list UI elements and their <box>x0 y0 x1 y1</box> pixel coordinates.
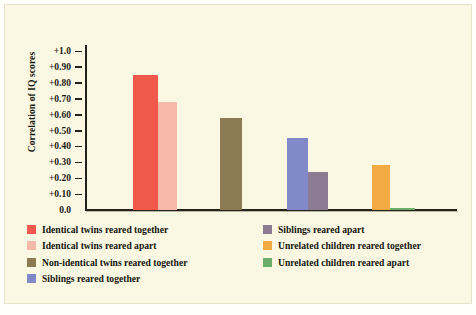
bar <box>308 172 328 210</box>
legend-swatch <box>263 241 272 250</box>
y-axis-tick: +0.90 <box>23 61 83 73</box>
y-axis-tick-label: +0.40 <box>49 140 71 152</box>
legend-item-label: Siblings reared together <box>42 273 140 284</box>
legend-item-label: Unrelated children reared together <box>278 240 421 251</box>
y-axis-tick: 0.0 <box>23 204 83 216</box>
legend-column-left: Identical twins reared togetherIdentical… <box>27 221 277 287</box>
bar <box>133 75 158 210</box>
y-axis-tick-label: +0.60 <box>49 109 71 121</box>
y-axis-tick-label: +0.20 <box>49 172 71 184</box>
figure-root: Correlation of IQ scores +1.0+0.90+0.80+… <box>0 0 476 315</box>
y-axis-tick-label: +1.0 <box>54 45 71 57</box>
y-axis-tick-label: +0.10 <box>49 188 71 200</box>
y-axis-tick-label: +0.70 <box>49 93 71 105</box>
legend-item: Siblings reared together <box>27 271 277 288</box>
y-axis-tick: +0.40 <box>23 140 83 152</box>
y-axis-tick-label: +0.50 <box>49 125 71 137</box>
y-axis-tick-mark <box>75 194 82 196</box>
legend-item: Non-identical twins reared together <box>27 254 277 271</box>
legend-item: Identical twins reared apart <box>27 238 277 255</box>
y-axis-tick-label: +0.80 <box>49 77 71 89</box>
y-axis-tick: +0.50 <box>23 125 83 137</box>
y-axis-tick-mark <box>75 114 82 116</box>
y-axis-tick: +0.20 <box>23 172 83 184</box>
bar <box>372 165 390 210</box>
y-axis-tick-mark <box>75 178 82 180</box>
legend-swatch <box>27 225 36 234</box>
legend-column-right: Siblings reared apartUnrelated children … <box>263 221 476 271</box>
legend-item: Identical twins reared together <box>27 221 277 238</box>
y-axis-tick-mark <box>75 162 82 164</box>
legend-item-label: Non-identical twins reared together <box>42 257 187 268</box>
legend-item-label: Unrelated children reared apart <box>278 257 409 268</box>
y-axis-tick-label: 0.0 <box>59 204 71 216</box>
y-axis-tick: +1.0 <box>23 45 83 57</box>
legend-swatch <box>27 274 36 283</box>
legend-item-label: Siblings reared apart <box>278 224 365 235</box>
x-axis-shadow <box>86 211 458 212</box>
legend-item-label: Identical twins reared together <box>42 224 168 235</box>
y-axis-tick-label: +0.30 <box>49 156 71 168</box>
legend-item-label: Identical twins reared apart <box>42 240 157 251</box>
y-axis-tick: +0.80 <box>23 77 83 89</box>
y-axis-tick-label: +0.90 <box>49 61 71 73</box>
y-axis-tick: +0.10 <box>23 188 83 200</box>
bar <box>287 138 308 210</box>
y-axis-tick-mark <box>75 98 82 100</box>
legend-item: Unrelated children reared together <box>263 238 476 255</box>
plot-area: Correlation of IQ scores +1.0+0.90+0.80+… <box>5 5 473 220</box>
y-axis-tick-mark <box>75 146 82 148</box>
chart-legend: Identical twins reared togetherIdentical… <box>5 221 473 305</box>
bar <box>158 102 177 210</box>
legend-swatch <box>263 225 272 234</box>
legend-item: Unrelated children reared apart <box>263 254 476 271</box>
y-axis-tick-mark <box>75 82 82 84</box>
legend-swatch <box>27 241 36 250</box>
y-axis-tick: +0.70 <box>23 93 83 105</box>
bar-series <box>85 51 457 210</box>
y-axis-tick-mark <box>75 66 82 68</box>
legend-swatch <box>263 258 272 267</box>
y-axis-tick: +0.60 <box>23 109 83 121</box>
y-axis-tick-mark <box>75 130 82 132</box>
y-axis-tick-mark <box>75 51 82 53</box>
y-axis-tick: +0.30 <box>23 156 83 168</box>
bar <box>390 208 415 210</box>
legend-item: Siblings reared apart <box>263 221 476 238</box>
legend-swatch <box>27 258 36 267</box>
chart-panel: Correlation of IQ scores +1.0+0.90+0.80+… <box>4 4 472 304</box>
bar <box>220 118 242 210</box>
